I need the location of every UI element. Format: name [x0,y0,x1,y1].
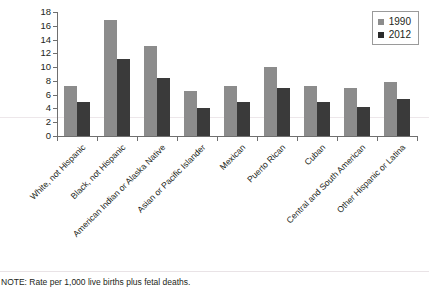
y-axis-tick-label: 18 [40,7,51,17]
x-axis-category-label-text: Mexican [218,143,247,172]
legend: 1990 2012 [372,11,419,45]
legend-item-2012: 2012 [378,28,411,41]
bar-1990 [64,86,77,136]
bar-group [257,12,297,136]
bar-1990 [344,88,357,136]
x-axis-category-labels: White, not HispanicBlack, not HispanicAm… [0,141,429,261]
y-axis-tick-label: 2 [46,117,51,127]
y-axis-tick-label: 14 [40,35,51,45]
x-axis-category-label-text: Cuban [303,143,327,167]
x-axis-category-label-text: Other Hispanic or Latina [335,143,407,215]
legend-label-1990: 1990 [389,17,411,27]
chart-note: NOTE: Rate per 1,000 live births plus fe… [1,277,190,287]
y-axis-tick-label: 12 [40,48,51,58]
x-axis-line [57,136,417,137]
x-axis-category-label-text: Asian or Pacific Islander [136,143,208,215]
bar-2012 [277,88,290,136]
y-axis-labels: 024681012141618 [0,12,57,137]
x-axis-category-label-text: Puerto Rican [246,143,287,184]
legend-item-1990: 1990 [378,15,411,28]
y-axis-tick-label: 10 [40,62,51,72]
legend-swatch-2012-icon [378,32,384,38]
chart-figure: 024681012141618 White, not HispanicBlack… [0,0,429,292]
legend-swatch-1990-icon [378,19,384,25]
x-axis-category-label-text: Central and South American [285,143,367,225]
bar-2012 [357,107,370,136]
y-axis-tick-label: 4 [46,103,51,113]
y-axis-tick-label: 16 [40,21,51,31]
footer-divider [0,271,429,272]
bar-2012 [317,102,330,136]
y-axis-tick-label: 8 [46,76,51,86]
y-axis-tick-label: 6 [46,90,51,100]
legend-label-2012: 2012 [389,30,411,40]
bar-group [57,12,97,136]
bar-2012 [77,102,90,136]
y-axis-tick-label: 0 [46,131,51,141]
